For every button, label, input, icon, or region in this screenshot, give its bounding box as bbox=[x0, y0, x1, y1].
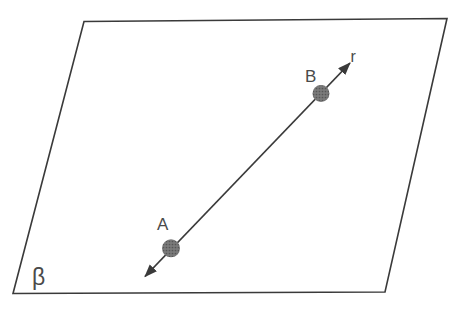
point-b bbox=[313, 85, 330, 102]
point-a-label: A bbox=[157, 215, 169, 234]
plane-beta-outline bbox=[13, 19, 447, 294]
plane-line-diagram: A B r β bbox=[0, 0, 453, 313]
point-a bbox=[162, 239, 180, 257]
plane-beta-label: β bbox=[32, 264, 45, 290]
figure-canvas: A B r β bbox=[0, 0, 453, 313]
point-b-label: B bbox=[305, 67, 316, 86]
line-r-label: r bbox=[351, 48, 357, 65]
